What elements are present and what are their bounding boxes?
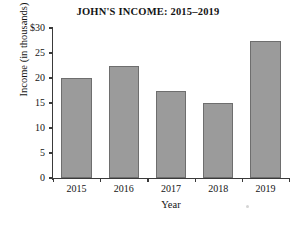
scan-artifact-speck [246,205,249,208]
x-tick-mark [147,178,148,182]
bar-2018 [203,103,233,178]
bar-2016 [109,66,139,179]
x-tick-label: 2015 [67,183,87,194]
y-tick-label: 15 [0,98,45,108]
x-tick-label: 2019 [255,183,275,194]
x-axis-title: Year [53,199,289,210]
x-tick-mark [242,178,243,182]
bar-2017 [156,91,186,179]
bar-2019 [250,41,280,179]
y-tick-label: 20 [0,73,45,83]
bar-2015 [61,78,91,178]
y-tick-label: 10 [0,123,45,133]
x-tick-mark [53,178,54,182]
chart-title: JOHN'S INCOME: 2015–2019 [0,6,296,17]
bars-layer [53,28,289,178]
x-tick-mark [100,178,101,182]
bar-chart-figure: JOHN'S INCOME: 2015–2019 Income (in thou… [0,0,296,225]
x-tick-label: 2017 [161,183,181,194]
x-tick-mark [289,178,290,182]
y-tick-label: 25 [0,48,45,58]
y-tick-label: 5 [0,148,45,158]
x-tick-label: 2016 [114,183,134,194]
y-tick-label: $30 [0,23,45,33]
y-tick-label: 0 [0,173,45,183]
x-axis-line [52,178,289,179]
x-tick-label: 2018 [208,183,228,194]
x-tick-mark [195,178,196,182]
